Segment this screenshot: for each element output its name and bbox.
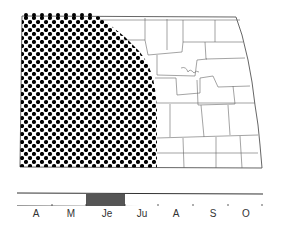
month-label-june: Je: [102, 208, 113, 219]
month-label-october: O: [242, 208, 250, 219]
active-period-bar: [86, 194, 125, 206]
distribution-map: [0, 0, 283, 180]
month-label-august: A: [173, 208, 180, 219]
month-label-september: S: [210, 208, 217, 219]
month-label-may: M: [67, 208, 75, 219]
timeline-top-line: [17, 193, 263, 194]
phenology-timeline: A M Je Ju A S O: [0, 186, 283, 234]
month-label-april: A: [33, 208, 40, 219]
top-scallop-dots: [24, 13, 92, 17]
month-label-july: Ju: [137, 208, 148, 219]
